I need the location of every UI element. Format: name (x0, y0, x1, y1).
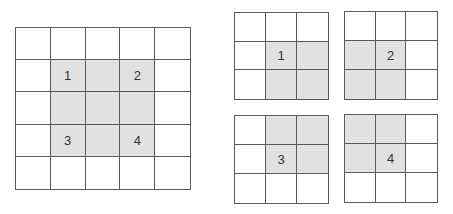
grid-cell (406, 70, 437, 99)
grid-cell (406, 144, 437, 173)
cell-label: 1 (277, 48, 284, 63)
cell-label: 2 (387, 48, 394, 63)
grid-cell (345, 173, 376, 202)
shaded-cell: 4 (120, 125, 155, 157)
shaded-cell (297, 145, 328, 174)
cell-label: 3 (64, 133, 71, 148)
grid-cell (16, 125, 51, 157)
grid-cell (235, 70, 266, 99)
grid-cell (51, 28, 86, 60)
shaded-cell: 2 (120, 60, 155, 92)
grid-cell (16, 28, 51, 60)
shaded-cell (51, 92, 86, 124)
shaded-cell: 3 (266, 145, 297, 174)
cell-label: 2 (134, 68, 141, 83)
shaded-cell (345, 70, 376, 99)
shaded-cell: 1 (266, 42, 297, 71)
shaded-cell: 2 (376, 41, 407, 70)
small-grid-1: 1 (234, 12, 329, 100)
grid-cell (235, 13, 266, 42)
shaded-cell (345, 41, 376, 70)
grid-cell (51, 157, 86, 189)
shaded-cell (86, 60, 121, 92)
shaded-cell (297, 42, 328, 71)
shaded-cell (266, 116, 297, 145)
grid-cell (297, 13, 328, 42)
grid-cell (86, 28, 121, 60)
grid-cell (406, 173, 437, 202)
grid-cell (266, 174, 297, 203)
grid-cell (376, 12, 407, 41)
shaded-cell (297, 116, 328, 145)
grid-cell (120, 157, 155, 189)
grid-cell (406, 41, 437, 70)
grid-cell (235, 174, 266, 203)
shaded-cell (86, 92, 121, 124)
shaded-cell (266, 70, 297, 99)
large-grid: 1234 (15, 27, 191, 190)
grid-cell (155, 28, 190, 60)
cell-label: 4 (134, 133, 141, 148)
small-grid-2: 2 (344, 11, 438, 100)
small-grid-3: 3 (234, 115, 329, 204)
shaded-cell (345, 115, 376, 144)
grid-cell (155, 60, 190, 92)
grid-cell (16, 92, 51, 124)
shaded-cell: 3 (51, 125, 86, 157)
grid-cell (345, 12, 376, 41)
grid-cell (86, 157, 121, 189)
shaded-cell (297, 70, 328, 99)
shaded-cell (120, 92, 155, 124)
grid-cell (155, 125, 190, 157)
shaded-cell: 1 (51, 60, 86, 92)
shaded-cell (86, 125, 121, 157)
grid-cell (16, 157, 51, 189)
small-grid-4: 4 (344, 114, 438, 203)
grid-cell (297, 174, 328, 203)
grid-cell (406, 12, 437, 41)
grid-cell (155, 92, 190, 124)
shaded-cell (345, 144, 376, 173)
cell-label: 1 (64, 68, 71, 83)
grid-cell (155, 157, 190, 189)
cell-label: 3 (277, 152, 284, 167)
shaded-cell (376, 115, 407, 144)
grid-cell (235, 116, 266, 145)
cell-label: 4 (387, 151, 394, 166)
grid-cell (16, 60, 51, 92)
grid-cell (266, 13, 297, 42)
grid-cell (406, 115, 437, 144)
grid-cell (235, 42, 266, 71)
grid-cell (120, 28, 155, 60)
shaded-cell: 4 (376, 144, 407, 173)
shaded-cell (376, 70, 407, 99)
grid-cell (376, 173, 407, 202)
grid-cell (235, 145, 266, 174)
